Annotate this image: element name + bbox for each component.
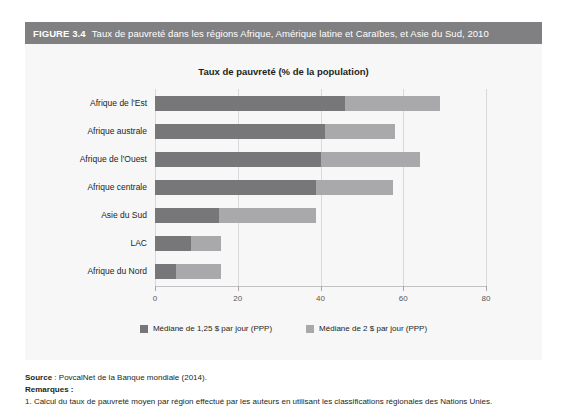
bar-segment — [176, 264, 222, 279]
legend-swatch-icon — [140, 325, 148, 333]
bar-segment — [219, 208, 316, 223]
legend-label: Médiane de 1,25 $ par jour (PPP) — [153, 324, 272, 333]
bar-row: LAC — [155, 236, 486, 251]
x-tick — [155, 286, 156, 291]
chart-legend: Médiane de 1,25 $ par jour (PPP)Médiane … — [25, 324, 542, 333]
bar-segment — [345, 96, 440, 111]
x-tick — [321, 286, 322, 291]
figure-number: FIGURE 3.4 — [33, 28, 86, 39]
bar-row: Afrique australe — [155, 124, 486, 139]
bar-segment — [155, 152, 321, 167]
category-label: Afrique centrale — [87, 180, 147, 195]
bar-row: Afrique de l'Est — [155, 96, 486, 111]
source-text: : PovcalNet de la Banque mondiale (2014)… — [52, 373, 207, 382]
bar-segment — [316, 180, 393, 195]
gridline — [486, 89, 487, 286]
bar-row: Asie du Sud — [155, 208, 486, 223]
bar-segment — [321, 152, 420, 167]
x-tick — [486, 286, 487, 291]
bar-segment — [155, 264, 176, 279]
category-label: Afrique du Nord — [87, 264, 147, 279]
bar-row: Afrique du Nord — [155, 264, 486, 279]
chart-panel: Taux de pauvreté (% de la population) Af… — [25, 44, 542, 360]
x-tick — [403, 286, 404, 291]
x-tick-label: 0 — [153, 294, 157, 303]
source-line: Source : PovcalNet de la Banque mondiale… — [25, 372, 550, 384]
figure-title: Taux de pauvreté dans les régions Afriqu… — [92, 28, 489, 39]
category-label: LAC — [130, 236, 147, 251]
chart-title: Taux de pauvreté (% de la population) — [25, 66, 542, 77]
bar-row: Afrique centrale — [155, 180, 486, 195]
legend-item: Médiane de 2 $ par jour (PPP) — [306, 324, 427, 333]
bar-segment — [155, 236, 191, 251]
figure-page: FIGURE 3.4 Taux de pauvreté dans les rég… — [0, 0, 567, 412]
figure-footer: Source : PovcalNet de la Banque mondiale… — [25, 372, 550, 408]
category-label: Afrique de l'Ouest — [80, 152, 147, 167]
legend-swatch-icon — [306, 325, 314, 333]
x-tick-label: 60 — [399, 294, 408, 303]
x-tick — [238, 286, 239, 291]
category-label: Asie du Sud — [101, 208, 147, 223]
bar-segment — [191, 236, 221, 251]
category-label: Afrique australe — [87, 124, 147, 139]
bar-segment — [155, 96, 345, 111]
legend-item: Médiane de 1,25 $ par jour (PPP) — [140, 324, 272, 333]
bar-row: Afrique de l'Ouest — [155, 152, 486, 167]
category-label: Afrique de l'Est — [90, 96, 147, 111]
source-label: Source — [25, 373, 52, 382]
plot-area: Afrique de l'EstAfrique australeAfrique … — [155, 89, 486, 286]
bar-segment — [155, 124, 325, 139]
bar-segment — [155, 180, 316, 195]
notes-label: Remarques : — [25, 384, 550, 396]
x-tick-label: 80 — [482, 294, 491, 303]
x-tick-label: 20 — [233, 294, 242, 303]
bar-segment — [325, 124, 395, 139]
legend-label: Médiane de 2 $ par jour (PPP) — [319, 324, 427, 333]
x-tick-label: 40 — [316, 294, 325, 303]
bar-segment — [155, 208, 219, 223]
note-item: 1. Calcul du taux de pauvreté moyen par … — [25, 396, 550, 408]
figure-header: FIGURE 3.4 Taux de pauvreté dans les rég… — [25, 22, 542, 44]
